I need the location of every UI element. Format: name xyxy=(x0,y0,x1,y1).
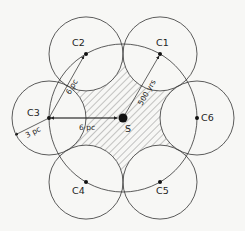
cluster-label-c3: C3 xyxy=(27,107,40,118)
label-s-to-c3: 6 pc xyxy=(79,123,95,132)
cluster-centre-c1 xyxy=(158,52,162,56)
cluster-centre-c2 xyxy=(84,52,88,56)
label-s: S xyxy=(125,123,131,134)
cluster-label-c6: C6 xyxy=(201,112,214,123)
cluster-centre-c6 xyxy=(195,116,199,120)
star-s xyxy=(119,114,128,123)
cluster-label-c4: C4 xyxy=(72,185,85,196)
cluster-label-c5: C5 xyxy=(156,185,169,196)
cluster-label-c1: C1 xyxy=(156,37,169,48)
cluster-centre-c5 xyxy=(158,180,162,184)
cluster-diagram: C1C2C3C4C5C6 S 6 pc 6 pc 500 yrs 3 pc xyxy=(0,0,245,231)
cluster-centre-c4 xyxy=(84,180,88,184)
cluster-label-c2: C2 xyxy=(72,37,85,48)
label-cluster-radius: 3 pc xyxy=(24,124,42,139)
